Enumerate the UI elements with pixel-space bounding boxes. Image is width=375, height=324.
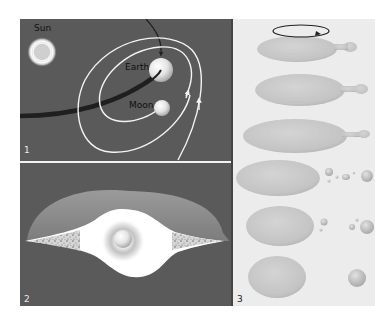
sun-disk [33,43,51,61]
panel-3-number: 3 [237,295,243,304]
earth-label: Earth [125,63,149,72]
moon-icon [154,100,170,116]
panel-1-number: 1 [24,146,30,155]
sun-label: Sun [34,24,51,33]
panel-3-background [233,19,375,306]
figure-svg [0,0,375,324]
panel-3-left-edge [231,19,233,306]
panel-1-earth-moon-system [20,19,231,162]
proto-earth-sphere [114,230,132,248]
panel-2-debris-disk [20,163,231,306]
figure: Sun Earth Moon 1 2 3 [0,0,375,324]
panel-2-number: 2 [24,295,30,304]
panel-1-background [20,19,231,161]
moon-label: Moon [129,101,153,110]
panel-3-fission-sequence [231,19,375,306]
